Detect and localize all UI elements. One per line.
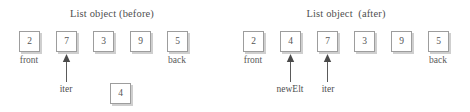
list-cell-value: 5 [429, 32, 448, 51]
back-label-before: back [159, 55, 195, 66]
list-cell: 7 [56, 31, 77, 52]
front-label-after: front [235, 55, 271, 66]
diagram-canvas: List object (before) 2 7 3 9 5 front bac… [0, 0, 470, 112]
list-cell-value: 2 [244, 32, 263, 51]
front-label-before: front [11, 55, 47, 66]
list-cell-value: 9 [392, 32, 411, 51]
list-cell-value: 3 [355, 32, 374, 51]
iter-label-before: iter [50, 84, 82, 95]
list-cell: 7 [317, 31, 338, 52]
list-cell-value: 2 [20, 32, 39, 51]
new-elt-arrow-after-icon [285, 54, 296, 82]
list-cell-value: 7 [318, 32, 337, 51]
list-cell-value: 9 [131, 32, 150, 51]
iter-arrow-after-icon [322, 54, 333, 82]
panel-title-after: List object (after) [281, 8, 411, 20]
list-cell: 2 [243, 31, 264, 52]
back-label-after: back [420, 55, 456, 66]
list-cell-value: 7 [57, 32, 76, 51]
new-elt-label-after: newElt [262, 84, 318, 95]
list-cell: 9 [391, 31, 412, 52]
list-cell-value: 5 [168, 32, 187, 51]
list-cell: 3 [93, 31, 114, 52]
list-cell-value: 3 [94, 32, 113, 51]
iter-label-after: iter [312, 84, 344, 95]
panel-title-before: List object (before) [47, 8, 177, 20]
list-cell: 9 [130, 31, 151, 52]
list-cell: 3 [354, 31, 375, 52]
list-cell-value: 4 [281, 32, 300, 51]
list-cell: 5 [428, 31, 449, 52]
list-cell: 4 [280, 31, 301, 52]
new-element-cell-value: 4 [111, 84, 130, 103]
iter-arrow-before-icon [61, 54, 72, 82]
list-cell: 2 [19, 31, 40, 52]
list-cell: 5 [167, 31, 188, 52]
new-element-cell-before: 4 [110, 83, 131, 104]
